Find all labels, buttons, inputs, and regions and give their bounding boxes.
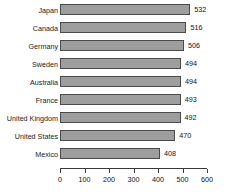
x-axis-tick-label: 500 — [177, 175, 189, 184]
bar-value-label: 494 — [185, 58, 197, 69]
bar-value-label: 408 — [164, 148, 176, 159]
bar — [60, 76, 181, 87]
bar-row: France493 — [0, 91, 236, 109]
x-axis-tick — [183, 169, 184, 173]
bar-row: United States470 — [0, 127, 236, 145]
bar-value-label: 506 — [188, 40, 200, 51]
bar — [60, 130, 175, 141]
bar-value-label: 470 — [179, 130, 191, 141]
category-label: United States — [0, 131, 58, 142]
bar — [60, 22, 186, 33]
category-label: Germany — [0, 41, 58, 52]
x-axis-tick — [158, 169, 159, 173]
bar-value-label: 494 — [185, 76, 197, 87]
bar — [60, 112, 181, 123]
category-label: Canada — [0, 23, 58, 34]
x-axis-tick-label: 0 — [58, 175, 62, 184]
bar-row: Sweden494 — [0, 55, 236, 73]
category-label: Sweden — [0, 59, 58, 70]
bar-value-label: 516 — [190, 22, 202, 33]
bar-chart: Japan532Canada516Germany506Sweden494Aust… — [0, 0, 236, 196]
bar-value-label: 532 — [194, 4, 206, 15]
bar — [60, 94, 181, 105]
bar-value-label: 493 — [185, 94, 197, 105]
x-axis: 0100200300400500600 — [60, 168, 207, 174]
x-axis-tick — [109, 169, 110, 173]
bar-row: Mexico408 — [0, 145, 236, 163]
category-label: United Kingdom — [0, 113, 58, 124]
category-label: Mexico — [0, 149, 58, 160]
x-axis-tick — [85, 169, 86, 173]
bar-row: Germany506 — [0, 37, 236, 55]
bar — [60, 40, 184, 51]
bar-row: Japan532 — [0, 1, 236, 19]
bar — [60, 4, 190, 15]
bar — [60, 148, 160, 159]
x-axis-tick-label: 400 — [152, 175, 164, 184]
bar — [60, 58, 181, 69]
x-axis-tick-label: 600 — [201, 175, 213, 184]
x-axis-tick — [207, 169, 208, 173]
bar-value-label: 492 — [185, 112, 197, 123]
chart-plot-area: Japan532Canada516Germany506Sweden494Aust… — [0, 0, 236, 164]
category-label: Japan — [0, 5, 58, 16]
category-label: Australia — [0, 77, 58, 88]
x-axis-tick — [134, 169, 135, 173]
x-axis-tick-label: 200 — [103, 175, 115, 184]
x-axis-tick-label: 300 — [128, 175, 140, 184]
category-label: France — [0, 95, 58, 106]
x-axis-tick — [60, 169, 61, 173]
bar-row: Canada516 — [0, 19, 236, 37]
x-axis-tick-label: 100 — [79, 175, 91, 184]
bar-row: United Kingdom492 — [0, 109, 236, 127]
bar-row: Australia494 — [0, 73, 236, 91]
